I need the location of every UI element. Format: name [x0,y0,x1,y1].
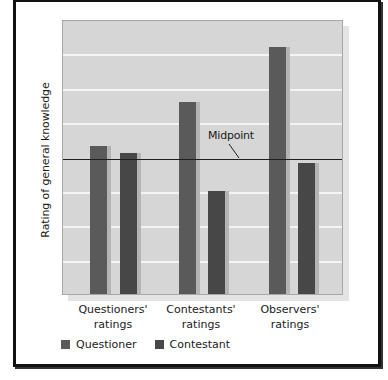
gridline [63,89,342,91]
legend-swatch-questioner [61,340,70,349]
bar-contestant-2 [298,163,315,294]
bar-contestant-1 [208,191,225,294]
category-label-contestants: Contestants' ratings [156,302,246,332]
legend: Questioner Contestant [61,338,248,351]
bar-questioner-0 [90,146,107,294]
plot-area [62,20,343,295]
gridline [63,123,342,125]
category-label-observers: Observers' ratings [245,302,335,332]
gridline [63,54,342,56]
y-axis-label: Rating of general knowledge [39,82,52,237]
legend-swatch-contestant [155,340,164,349]
legend-item-contestant: Contestant [155,338,231,351]
bar-questioner-1 [179,102,196,295]
category-label-questioners: Questioners' ratings [68,302,158,332]
midpoint-callout-line [228,143,248,163]
bar-questioner-2 [269,47,286,295]
legend-item-questioner: Questioner [61,338,137,351]
midpoint-line [63,159,342,160]
bar-contestant-0 [120,153,137,294]
midpoint-label: Midpoint [208,129,254,142]
